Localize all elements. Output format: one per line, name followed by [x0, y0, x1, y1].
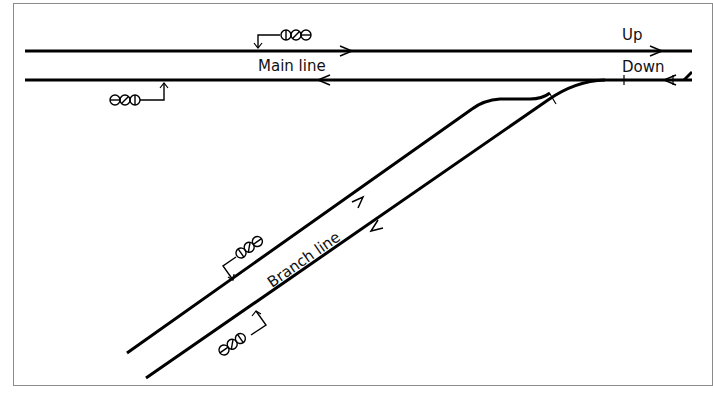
branch-up-track — [127, 93, 550, 353]
branch-down-track — [146, 80, 605, 378]
main-up-signal — [254, 30, 311, 48]
branch-up-signal — [223, 235, 264, 280]
branch-down-signal — [217, 311, 266, 357]
up-label: Up — [622, 26, 643, 44]
down-label: Down — [622, 58, 665, 76]
main-line-label: Main line — [258, 57, 326, 75]
branch-line-label: Branch line — [264, 228, 344, 291]
down-main-track — [25, 72, 692, 85]
up-main-track — [25, 46, 692, 56]
main-down-signal — [110, 83, 168, 105]
